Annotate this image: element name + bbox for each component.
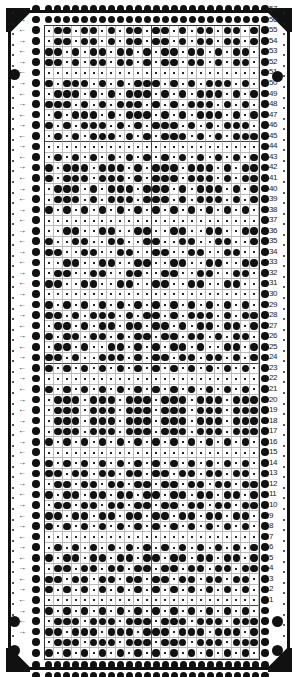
unpunched-cell: [72, 216, 81, 227]
unpunched-cell: [232, 648, 241, 659]
punched-hole: [107, 89, 116, 100]
punched-hole: [250, 638, 259, 649]
unpunched-cell: [223, 395, 232, 406]
punched-hole: [72, 511, 81, 522]
edge-dot: [283, 118, 285, 120]
punched-hole: [188, 585, 197, 596]
unpunched-cell: [250, 58, 259, 69]
punched-hole: [134, 617, 143, 628]
punched-hole: [63, 427, 72, 438]
punched-hole: [134, 501, 143, 512]
alignment-hole: [9, 616, 20, 627]
punched-hole: [99, 321, 108, 332]
unpunched-cell: [107, 585, 116, 596]
unpunched-cell: [250, 142, 259, 153]
edge-sprocket-hole: [32, 417, 40, 425]
unpunched-cell: [179, 448, 188, 459]
punched-hole: [250, 564, 259, 575]
punched-hole: [152, 574, 161, 585]
punched-hole: [250, 427, 259, 438]
unpunched-cell: [134, 490, 143, 501]
unpunched-cell: [107, 606, 116, 617]
punched-hole: [54, 480, 63, 491]
unpunched-cell: [250, 585, 259, 596]
punched-hole: [161, 47, 170, 58]
alignment-hole: [272, 616, 283, 627]
unpunched-cell: [170, 596, 179, 607]
row-number-label: 29: [269, 300, 277, 310]
edge-sprocket-hole: [32, 237, 40, 245]
punched-hole: [232, 469, 241, 480]
punched-hole: [81, 300, 90, 311]
edge-sprocket-hole: [261, 26, 269, 34]
unpunched-cell: [250, 290, 259, 301]
unpunched-cell: [143, 163, 152, 174]
punched-hole: [63, 100, 72, 111]
punched-hole: [99, 416, 108, 427]
unpunched-cell: [81, 395, 90, 406]
edge-sprocket-hole: [261, 427, 269, 435]
punched-hole: [107, 427, 116, 438]
unpunched-cell: [241, 342, 250, 353]
arrow-right-icon: →: [18, 437, 26, 447]
unpunched-cell: [250, 606, 259, 617]
unpunched-cell: [54, 163, 63, 174]
unpunched-cell: [250, 121, 259, 132]
edge-sprocket-hole: [32, 132, 40, 140]
pattern-row: [45, 226, 259, 237]
unpunched-cell: [232, 226, 241, 237]
unpunched-cell: [161, 606, 170, 617]
punched-hole: [143, 131, 152, 142]
full-punch-hole: [153, 661, 161, 669]
unpunched-cell: [116, 226, 125, 237]
unpunched-cell: [170, 26, 179, 37]
punched-hole: [206, 574, 215, 585]
unpunched-cell: [72, 342, 81, 353]
punched-hole: [223, 237, 232, 248]
punched-hole: [179, 490, 188, 501]
punched-hole: [63, 617, 72, 628]
punched-hole: [45, 490, 54, 501]
unpunched-cell: [232, 532, 241, 543]
edge-sprocket-hole: [261, 543, 269, 551]
unpunched-cell: [232, 448, 241, 459]
punched-hole: [170, 258, 179, 269]
edge-sprocket-hole: [261, 332, 269, 340]
row-number-label: 3: [269, 574, 273, 584]
punched-hole: [206, 26, 215, 37]
edge-sprocket-hole: [261, 153, 269, 161]
unpunched-cell: [99, 374, 108, 385]
full-punch-hole: [126, 672, 134, 677]
unpunched-cell: [170, 469, 179, 480]
punched-hole: [206, 437, 215, 448]
punched-hole: [99, 269, 108, 280]
punched-hole: [134, 395, 143, 406]
punched-hole: [45, 332, 54, 343]
punched-hole: [81, 522, 90, 533]
punched-hole: [206, 321, 215, 332]
unpunched-cell: [206, 290, 215, 301]
unpunched-cell: [143, 374, 152, 385]
unpunched-cell: [116, 26, 125, 37]
edge-sprocket-hole: [32, 607, 40, 615]
unpunched-cell: [197, 79, 206, 90]
row-number-label: 41: [269, 173, 277, 183]
punched-hole: [90, 416, 99, 427]
unpunched-cell: [54, 596, 63, 607]
punched-hole: [232, 574, 241, 585]
row-number-label: 44: [269, 141, 277, 151]
punched-hole: [161, 406, 170, 417]
row-number-label: 23: [269, 363, 277, 373]
unpunched-cell: [232, 606, 241, 617]
punched-hole: [161, 279, 170, 290]
arrow-right-icon: →: [18, 352, 26, 362]
punched-hole: [72, 110, 81, 121]
punched-hole: [250, 395, 259, 406]
unpunched-cell: [223, 448, 232, 459]
punched-hole: [81, 247, 90, 258]
unpunched-cell: [63, 58, 72, 69]
punched-hole: [125, 511, 134, 522]
unpunched-cell: [54, 174, 63, 185]
punched-hole: [63, 385, 72, 396]
edge-sprocket-hole: [32, 533, 40, 541]
